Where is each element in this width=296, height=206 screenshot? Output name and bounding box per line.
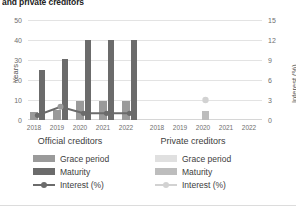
y2-axis-tick-15: 15 [268, 17, 290, 24]
legend-label-maturity-official: Maturity [60, 167, 90, 177]
interest-point-private-2020 [202, 97, 208, 103]
y2-axis-tick-9: 9 [268, 57, 290, 64]
bottom-divider [0, 205, 296, 206]
legend-swatch-grace-private [155, 155, 177, 162]
group-label-private: Private creditors [123, 136, 263, 147]
interest-point-official-2022 [127, 111, 132, 116]
legend-label-maturity-private: Maturity [182, 167, 212, 177]
legend-item-interest-official[interactable]: Interest (%) [33, 178, 109, 191]
interest-point-official-2019 [58, 104, 64, 110]
legend-label-interest-official: Interest (%) [60, 180, 104, 190]
y2-axis-tick-12: 12 [268, 37, 290, 44]
legend-swatch-grace-official [33, 155, 55, 162]
interest-line-layer [28, 20, 262, 120]
y-axis-tick-40: 40 [2, 37, 22, 44]
legend-item-maturity-private[interactable]: Maturity [155, 165, 231, 178]
y-axis-tick-0: 0 [2, 117, 22, 124]
y-axis-tick-10: 10 [2, 97, 22, 104]
chart-container: and private creditors 50 40 30 20 10 0 1… [0, 0, 296, 206]
legend-official: Grace period Maturity Interest (%) [33, 152, 109, 191]
chart-title: and private creditors [2, 0, 84, 8]
interest-point-official-2021 [104, 111, 109, 116]
legend-item-interest-private[interactable]: Interest (%) [155, 178, 231, 191]
y2-axis-tick-6: 6 [268, 77, 290, 84]
legend-label-grace-official: Grace period [60, 154, 109, 164]
legend-swatch-maturity-official [33, 168, 55, 175]
legend-private: Grace period Maturity Interest (%) [155, 152, 231, 191]
legend-swatch-interest-private [155, 181, 177, 188]
y-axis-title: Years [11, 64, 20, 83]
legend-item-grace-official[interactable]: Grace period [33, 152, 109, 165]
y2-axis-tick-0: 0 [268, 117, 290, 124]
legend-item-grace-private[interactable]: Grace period [155, 152, 231, 165]
legend-swatch-interest-official [33, 181, 55, 188]
legend-item-maturity-official[interactable]: Maturity [33, 165, 109, 178]
y2-axis-title: Interest (%) [290, 64, 296, 103]
legend-label-grace-private: Grace period [182, 154, 231, 164]
x-tick-private-2022: 2022 [236, 124, 262, 132]
plot-area [28, 20, 262, 120]
legend-swatch-maturity-private [155, 168, 177, 175]
y-axis-tick-50: 50 [2, 17, 22, 24]
group-label-official: Official creditors [0, 136, 140, 147]
interest-point-official-2018 [35, 113, 40, 118]
interest-point-official-2020 [81, 111, 86, 116]
y2-axis-tick-3: 3 [268, 97, 290, 104]
x-tick-official-2022: 2022 [113, 124, 139, 132]
legend-label-interest-private: Interest (%) [182, 180, 226, 190]
y-axis-tick-30: 30 [2, 57, 22, 64]
